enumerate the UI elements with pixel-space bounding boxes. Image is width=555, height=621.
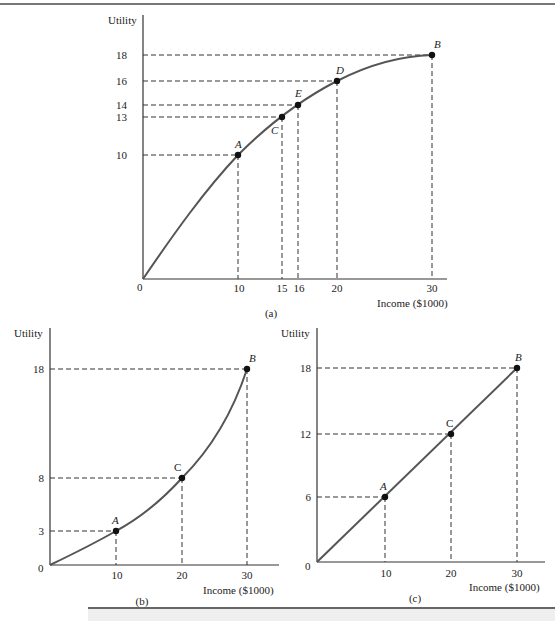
guide-lines [50,369,247,565]
origin-label: 0 [305,560,311,572]
point-label-c: C [271,124,279,136]
x-tick-30: 30 [512,567,524,579]
x-tick-10: 10 [112,569,124,581]
x-axis-label: Income ($1000) [377,297,448,310]
x-tick-20: 20 [446,567,458,579]
figure: A C E D B Utility 18 16 14 13 10 0 10 15… [0,0,555,621]
point-e [295,102,301,108]
point-label-b: B [515,351,522,363]
point-label-e: E [294,87,302,99]
point-label-a: A [234,138,242,150]
point-a [382,494,388,500]
utility-curve [50,369,247,565]
point-a [113,528,119,534]
point-c [448,431,454,437]
y-axis-label: Utility [14,327,43,339]
point-label-c: C [446,417,453,429]
x-tick-30: 30 [242,569,254,581]
y-tick-6: 6 [306,491,312,503]
origin-label: 0 [38,562,44,574]
guide-lines [143,55,432,279]
y-tick-3: 3 [39,525,45,537]
point-b [514,365,520,371]
point-b [429,52,435,58]
point-label-c: C [174,461,181,473]
point-a [235,152,241,158]
x-axis-label: Income ($1000) [469,581,540,594]
point-c [279,114,285,120]
x-tick-15: 15 [277,282,289,294]
origin-label: 0 [137,281,143,293]
point-label-a: A [379,480,387,492]
y-tick-18: 18 [116,49,128,61]
chart-a: A C E D B Utility 18 16 14 13 10 0 10 15… [108,14,448,320]
panel-label: (a) [265,307,278,320]
y-tick-13: 13 [116,111,128,123]
y-tick-14: 14 [116,99,128,111]
point-label-b: B [249,352,256,364]
y-tick-16: 16 [116,75,128,87]
x-axis-label: Income ($1000) [203,584,274,597]
data-points [113,366,250,534]
caption-band [88,609,555,621]
y-axis-label: Utility [108,14,137,26]
utility-curve [143,55,432,279]
x-tick-20: 20 [332,282,344,294]
point-c [179,475,185,481]
point-label-b: B [434,38,441,50]
x-tick-30: 30 [427,282,439,294]
y-tick-18: 18 [33,363,45,375]
x-tick-10: 10 [234,282,246,294]
y-tick-10: 10 [116,149,128,161]
y-tick-18: 18 [300,362,312,374]
point-label-a: A [111,514,119,526]
point-d [334,78,340,84]
point-b [244,366,250,372]
y-tick-12: 12 [300,428,311,440]
y-axis-label: Utility [281,327,310,339]
y-tick-8: 8 [39,472,45,484]
x-tick-20: 20 [177,569,189,581]
panel-label: (c) [409,592,422,605]
chart-c: A C B Utility 18 12 6 0 10 20 30 Income … [281,327,545,605]
x-tick-16: 16 [294,282,306,294]
utility-line [317,368,517,562]
point-label-d: D [335,64,344,76]
x-tick-10: 10 [381,567,393,579]
chart-b: A C B Utility 18 8 3 0 10 20 30 Income (… [14,327,279,608]
